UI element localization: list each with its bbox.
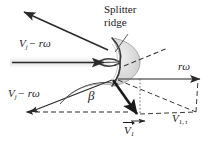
exit-velocity-vector xyxy=(113,80,137,114)
blade-speed-label: rω xyxy=(178,61,190,72)
jet-upper-subscript: j xyxy=(26,43,28,50)
lower-relative-velocity-arrow xyxy=(30,80,112,112)
jet-lower-symbol: V xyxy=(8,87,15,99)
exit-velocity-label: V1 xyxy=(124,125,134,137)
splitter-ridge-label-line2: ridge xyxy=(104,17,127,28)
jet-relative-velocity-label-lower: Vj− rω xyxy=(8,88,40,100)
jet-upper-rest: − rω xyxy=(29,37,51,49)
exit-velocity-subscript: 1 xyxy=(131,130,134,137)
exit-velocity-vector-symbol: V1 xyxy=(124,125,134,137)
jet-lower-rest: − rω xyxy=(18,87,40,99)
pelton-splitter-diagram: Splitter ridge Vj− rω Vj− rω rω β V1 V1,… xyxy=(0,0,208,143)
jet-lower-subscript: j xyxy=(15,93,17,100)
jet-relative-velocity-label-upper: Vj− rω xyxy=(19,38,51,50)
dashed-triangle-base xyxy=(140,112,196,114)
beta-angle-label: β xyxy=(88,89,94,102)
dashed-triangle-lower-right xyxy=(118,80,196,112)
splitter-ridge-label-line1: Splitter xyxy=(104,4,136,15)
tangential-v: V xyxy=(172,112,179,124)
tangential-subscript: 1, t xyxy=(179,118,188,125)
exit-velocity-v: V xyxy=(124,124,131,136)
jet-upper-symbol: V xyxy=(19,37,26,49)
tangential-component-label: V1, t xyxy=(172,113,187,125)
dashed-triangle-right-side xyxy=(196,80,198,112)
